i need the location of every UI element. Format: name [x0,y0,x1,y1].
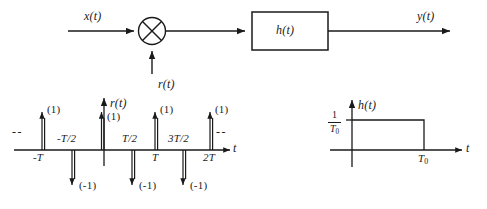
filter-plot-signal-label: h(t) [358,99,376,111]
output-signal-label: y(t) [417,10,434,22]
impulse-arrow-three-T-over-2 [183,150,186,185]
input-signal-label: x(t) [84,10,101,22]
tick-label-minus-T: -T [33,152,43,163]
filter-plot-axis-label: t [466,142,470,154]
impulse-arrow-T-over-2 [132,150,135,185]
amplitude-denominator: T0 [328,124,341,136]
impulse-arrow-T [155,112,158,150]
impulse-weight-minus-T: (1) [47,104,60,115]
duration-label-subscript: 0 [424,157,428,166]
figure-canvas: x(t) r(t) h(t) y(t) r(t) t -- -- (1) (1)… [0,0,487,209]
filter-block-label: h(t) [276,24,294,36]
carrier-signal-label: r(t) [158,78,175,90]
impulse-weight-two-T: (1) [215,104,228,115]
tick-label-two-T: 2T [203,152,215,163]
amplitude-denominator-subscript: 0 [336,127,340,135]
tick-label-T-over-2: T/2 [122,133,137,144]
impulse-plot-signal-label: r(t) [110,97,127,109]
impulse-arrow-minus-T-over-2 [72,150,75,185]
impulse-arrow-minus-T [42,112,45,150]
tick-label-T: T [152,152,158,163]
tick-label-three-T-over-2: 3T/2 [168,133,189,144]
multiplier-symbol [139,18,166,45]
left-ellipsis: -- [12,126,23,138]
duration-label: T0 [418,153,428,166]
impulse-weight-T: (1) [160,104,173,115]
right-ellipsis: -- [216,126,227,138]
impulse-arrow-two-T [210,112,213,150]
impulse-plot-axis-label: t [233,142,237,154]
impulse-weight-T-over-2: (-1) [139,180,156,191]
amplitude-label: 1 T0 [328,110,341,136]
amplitude-numerator: 1 [328,110,341,121]
rectangular-pulse-trace [352,120,424,150]
impulse-weight-three-T-over-2: (-1) [190,180,207,191]
tick-label-minus-T-over-2: -T/2 [57,133,76,144]
impulse-weight-minus-T-over-2: (-1) [79,180,96,191]
impulse-weight-zero: (1) [107,111,120,122]
figure-vector-layer [0,0,487,209]
